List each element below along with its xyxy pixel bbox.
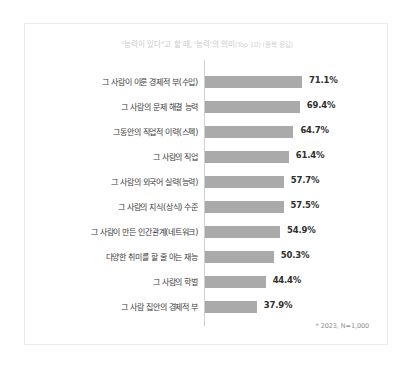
bar-row: 그 사람의 지식(상식) 수준57.5% bbox=[25, 195, 389, 220]
bar-track bbox=[205, 76, 302, 88]
bar-fill bbox=[205, 76, 302, 88]
bar-value-label: 37.9% bbox=[264, 300, 293, 310]
bar-category-label: 그 사람의 지식(상식) 수준 bbox=[25, 201, 198, 212]
bar-track bbox=[205, 126, 293, 138]
bar-row: 그 사람의 문제 해결 능력69.4% bbox=[25, 95, 389, 120]
bar-fill bbox=[205, 301, 257, 313]
bar-category-label: 그 사람이 만든 인간관계(네트워크) bbox=[25, 226, 198, 237]
bar-fill bbox=[205, 251, 274, 263]
bar-value-label: 57.7% bbox=[291, 175, 320, 185]
bar-track bbox=[205, 301, 257, 313]
bar-row: 다양한 취미를 할 줄 아는 재능50.3% bbox=[25, 245, 389, 270]
bar-row: 그 사람이 만든 인간관계(네트워크)54.9% bbox=[25, 220, 389, 245]
bar-fill bbox=[205, 226, 280, 238]
bar-fill bbox=[205, 101, 300, 113]
bar-fill bbox=[205, 201, 284, 213]
bar-value-label: 61.4% bbox=[296, 150, 325, 160]
bar-category-label: 그동안의 직업적 이력(스펙) bbox=[25, 126, 198, 137]
bar-value-label: 71.1% bbox=[309, 75, 338, 85]
bar-row: 그 사람 집안의 경제적 부37.9% bbox=[25, 295, 389, 320]
bar-category-label: 그 사람의 문제 해결 능력 bbox=[25, 101, 198, 112]
bar-category-label: 그 사람의 학벌 bbox=[25, 276, 198, 287]
bar-fill bbox=[205, 276, 266, 288]
bar-row: 그동안의 직업적 이력(스펙)64.7% bbox=[25, 120, 389, 145]
bar-value-label: 64.7% bbox=[300, 125, 329, 135]
bar-category-label: 그 사람이 이룬 경제적 부(수입) bbox=[25, 76, 198, 87]
bar-track bbox=[205, 176, 284, 188]
chart-title-main: "능력이 있다"고 할 때, '능력'의 의미 bbox=[121, 40, 235, 49]
bar-row: 그 사람이 이룬 경제적 부(수입)71.1% bbox=[25, 70, 389, 95]
bar-row: 그 사람의 외국어 실력(능력)57.7% bbox=[25, 170, 389, 195]
bar-category-label: 그 사람의 직업 bbox=[25, 151, 198, 162]
bar-category-label: 다양한 취미를 할 줄 아는 재능 bbox=[25, 251, 198, 262]
bar-value-label: 54.9% bbox=[287, 225, 316, 235]
bar-row: 그 사람의 학벌44.4% bbox=[25, 270, 389, 295]
plot-area: 그 사람이 이룬 경제적 부(수입)71.1%그 사람의 문제 해결 능력69.… bbox=[25, 60, 389, 328]
bar-track bbox=[205, 151, 289, 163]
bar-track bbox=[205, 226, 280, 238]
bar-category-label: 그 사람의 외국어 실력(능력) bbox=[25, 176, 198, 187]
bar-category-label: 그 사람 집안의 경제적 부 bbox=[25, 301, 198, 312]
bar-fill bbox=[205, 126, 293, 138]
chart-title-sub: (Top 10) (중복 응답) bbox=[235, 41, 293, 49]
bar-fill bbox=[205, 176, 284, 188]
bar-row: 그 사람의 직업61.4% bbox=[25, 145, 389, 170]
chart-footnote: * 2023, N=1,000 bbox=[316, 322, 369, 330]
chart-card: "능력이 있다"고 할 때, '능력'의 의미(Top 10) (중복 응답) … bbox=[24, 23, 388, 345]
bar-fill bbox=[205, 151, 289, 163]
bar-value-label: 50.3% bbox=[281, 250, 310, 260]
bar-track bbox=[205, 276, 266, 288]
bar-track bbox=[205, 201, 284, 213]
bar-track bbox=[205, 101, 300, 113]
bar-value-label: 44.4% bbox=[273, 275, 302, 285]
chart-title: "능력이 있다"고 할 때, '능력'의 의미(Top 10) (중복 응답) bbox=[25, 38, 389, 49]
bar-track bbox=[205, 251, 274, 263]
bar-value-label: 57.5% bbox=[291, 200, 320, 210]
bar-value-label: 69.4% bbox=[307, 100, 336, 110]
